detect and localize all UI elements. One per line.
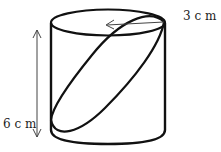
- radius-arrow-line: [107, 22, 164, 25]
- height-label: 6 c m: [3, 117, 36, 131]
- radius-label: 3 c m: [183, 9, 216, 23]
- cylinder-diagram: 3 c m 6 c m: [0, 0, 221, 152]
- inclined-section-ellipse: [51, 16, 164, 131]
